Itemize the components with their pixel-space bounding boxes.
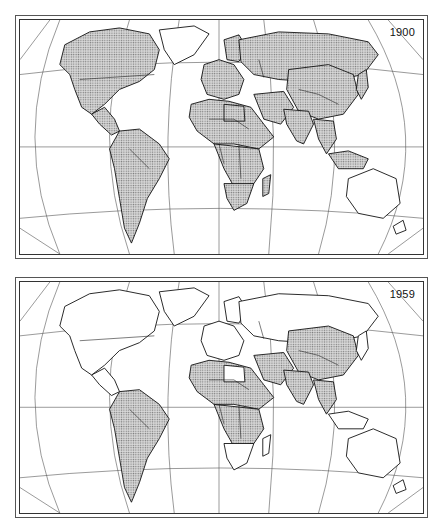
graticule-line xyxy=(20,282,50,321)
map-panel-1900: 1900 xyxy=(15,15,428,259)
map-frame: 1900 xyxy=(19,19,424,255)
region-new-zealand xyxy=(393,480,406,494)
region-north-america xyxy=(60,28,160,114)
world-map xyxy=(20,282,423,513)
region-africa-sub xyxy=(214,404,264,446)
region-greenland xyxy=(159,26,209,65)
region-australia xyxy=(346,169,400,219)
graticule-line xyxy=(20,20,50,60)
graticule-line xyxy=(20,488,60,513)
region-new-zealand xyxy=(393,220,406,234)
graticule-line xyxy=(35,20,60,254)
region-africa-south xyxy=(224,184,254,211)
graticule-line xyxy=(20,228,60,254)
region-southeast-asia xyxy=(314,119,337,154)
map-frame: 1959 xyxy=(19,281,424,514)
region-southeast-asia xyxy=(314,380,337,414)
region-africa-south xyxy=(224,444,254,470)
region-australia xyxy=(346,429,400,478)
graticule-line xyxy=(388,228,423,254)
region-europe-west xyxy=(201,60,244,100)
region-africa-libya xyxy=(224,104,245,121)
world-map xyxy=(20,20,423,254)
map-panel-1959: 1959 xyxy=(15,277,428,518)
region-india xyxy=(284,109,314,144)
region-africa-libya xyxy=(224,365,245,382)
region-europe-west xyxy=(201,321,244,360)
year-label: 1900 xyxy=(390,26,415,38)
graticule-line xyxy=(35,282,60,513)
region-africa-sub xyxy=(214,144,264,187)
region-madagascar xyxy=(263,435,271,457)
region-south-america xyxy=(110,129,170,243)
graticule-line xyxy=(388,488,423,513)
region-india xyxy=(284,370,314,404)
region-north-america xyxy=(60,290,160,375)
region-greenland xyxy=(159,288,209,326)
region-madagascar xyxy=(263,175,271,197)
region-south-america xyxy=(110,390,170,503)
year-label: 1959 xyxy=(390,288,415,300)
